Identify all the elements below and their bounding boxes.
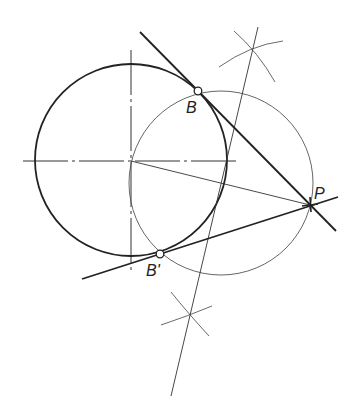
point-p-cross-v	[310, 197, 311, 212]
tangent-line-b-prime	[82, 197, 338, 279]
construction-arc-top-1	[219, 41, 283, 67]
point-b-prime-marker	[156, 250, 164, 258]
construction-arc-bottom-1	[161, 306, 212, 325]
perpendicular-bisector	[171, 27, 258, 396]
point-b-marker	[194, 87, 202, 95]
label-p: P	[314, 185, 325, 202]
tangent-construction-diagram: B B' P	[0, 0, 355, 407]
center-to-p-line	[131, 161, 310, 205]
tangent-line-b	[140, 32, 336, 231]
construction-arc-top-2	[234, 31, 275, 82]
label-b: B	[186, 99, 197, 116]
label-b-prime: B'	[146, 262, 161, 279]
